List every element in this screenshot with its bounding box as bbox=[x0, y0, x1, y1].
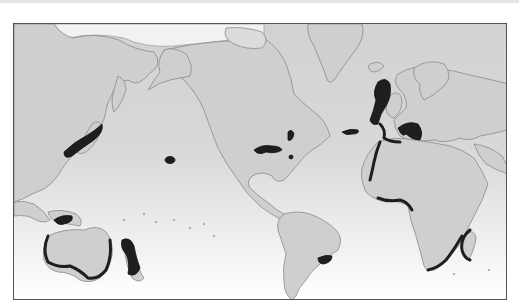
region-azores bbox=[342, 129, 358, 134]
region-south-brazil-uruguay bbox=[318, 255, 332, 264]
region-mediterranean bbox=[398, 123, 422, 140]
region-new-zealand bbox=[122, 239, 141, 275]
landmass-iceland bbox=[368, 62, 384, 72]
region-british-isles-north-sea bbox=[370, 79, 391, 124]
landmass-east-asia bbox=[14, 24, 158, 202]
region-bahamas bbox=[289, 155, 293, 159]
top-divider bbox=[0, 0, 519, 3]
world-map bbox=[13, 23, 507, 300]
landmass-southeast-asia bbox=[14, 201, 50, 222]
landmass-greenland bbox=[308, 24, 363, 82]
map-canvas bbox=[14, 24, 507, 300]
region-hawaii bbox=[165, 157, 175, 164]
